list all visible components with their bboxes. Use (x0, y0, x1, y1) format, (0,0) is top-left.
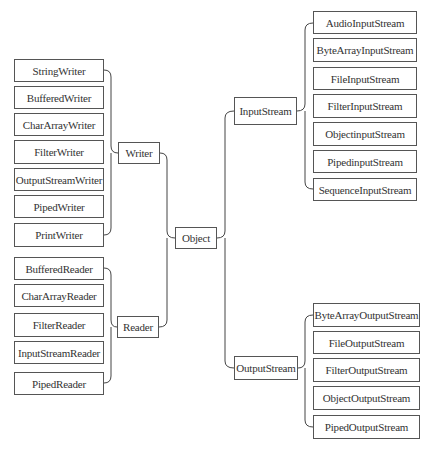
bytearrayoutputstream-node: ByteArrayOutputStream (313, 303, 420, 327)
printwriter-node: PrintWriter (14, 223, 104, 247)
fileoutputstream-node: FileOutputStream (313, 331, 420, 354)
object-left-brace (159, 153, 175, 327)
filterinputstream-node: FilterInputStream (313, 94, 417, 118)
objectoutputstream-node: ObjectOutputStream (313, 386, 420, 410)
pipedoutputstream-node: PipedOutputStream (313, 415, 420, 439)
writer-brace (104, 70, 118, 235)
filterreader-node: FilterReader (14, 313, 104, 337)
bytearrayinputstream-node: ByteArrayInputStream (313, 38, 417, 62)
outputstream-node: OutputStream (234, 356, 298, 380)
bufferedwriter-node: BufferedWriter (14, 86, 104, 109)
pipedwriter-node: PipedWriter (14, 195, 104, 218)
outputstreamwriter-node: OutputStreamWriter (14, 168, 104, 191)
java-io-class-hierarchy-diagram: StringWriter BufferedWriter CharArrayWri… (0, 0, 434, 450)
writer-node: Writer (118, 142, 160, 164)
pipedreader-node: PipedReader (14, 372, 104, 395)
bufferedreader-node: BufferedReader (14, 257, 104, 280)
audioinputstream-node: AudioInputStream (313, 11, 417, 34)
inputstream-node: InputStream (234, 97, 297, 125)
inputstreamreader-node: InputStreamReader (14, 341, 104, 364)
reader-brace (104, 268, 117, 383)
sequenceinputstream-node: SequenceInputStream (313, 178, 417, 201)
chararrayreader-node: CharArrayReader (14, 284, 104, 307)
stringwriter-node: StringWriter (14, 59, 104, 82)
input-stream-brace (297, 23, 313, 189)
object-right-brace (217, 111, 234, 368)
filterwriter-node: FilterWriter (14, 140, 104, 164)
filteroutputstream-node: FilterOutputStream (313, 358, 420, 382)
output-stream-brace (298, 315, 313, 427)
chararraywriter-node: CharArrayWriter (14, 113, 104, 136)
pipedinputstream-node: PipedinputStream (313, 150, 417, 173)
fileinputstream-node: FileInputStream (313, 67, 417, 90)
objectinputstream-node: ObjectinputStream (313, 122, 417, 146)
reader-node: Reader (117, 316, 159, 338)
object-node: Object (175, 227, 217, 249)
